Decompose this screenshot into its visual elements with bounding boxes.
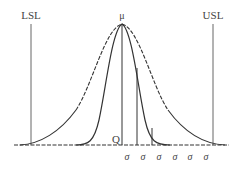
- wide-curve-left-tail: [20, 110, 76, 145]
- narrow-curve: [76, 24, 170, 145]
- lsl-label: LSL: [21, 9, 41, 21]
- diagram-canvas: LSL USL μ Q σ σ σ σ σ σ: [0, 0, 242, 169]
- q-label: Q: [112, 133, 120, 145]
- usl-label: USL: [203, 9, 224, 21]
- wide-curve-right-tail: [168, 110, 225, 145]
- sigma-tick-label: σ: [204, 151, 210, 162]
- mean-label: μ: [119, 10, 124, 21]
- sigma-tick-label: σ: [125, 151, 131, 162]
- sigma-tick-label: σ: [157, 151, 163, 162]
- capability-diagram: LSL USL μ Q σ σ σ σ σ σ: [0, 0, 242, 169]
- sigma-tick-label: σ: [173, 151, 179, 162]
- sigma-tick-label: σ: [188, 151, 194, 162]
- sigma-tick-label: σ: [141, 151, 147, 162]
